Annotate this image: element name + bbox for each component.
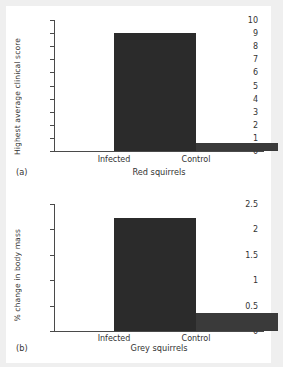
y-tick-label-a-9: 9 bbox=[253, 29, 258, 38]
plot-area-a: Highest average clinical score 012345678… bbox=[6, 6, 271, 188]
y-tick-label-a-1: 1 bbox=[253, 133, 258, 142]
chart-panel-a: Highest average clinical score 012345678… bbox=[6, 6, 271, 188]
category-label-control-b: Control bbox=[182, 334, 211, 343]
plot-area-b: % change in body mass 00.511.522.5 Infec… bbox=[6, 188, 271, 363]
group-label-a: Red squirrels bbox=[132, 167, 185, 177]
y-tick-label-a-10: 10 bbox=[248, 16, 258, 25]
y-tick-label-a-7: 7 bbox=[253, 55, 258, 64]
y-tick-a-2 bbox=[50, 125, 54, 126]
x-axis-line-b bbox=[54, 331, 264, 332]
y-tick-label-a-4: 4 bbox=[253, 94, 258, 103]
y-tick-a-10 bbox=[50, 20, 54, 21]
y-tick-label-a-5: 5 bbox=[253, 81, 258, 90]
y-axis-line-b bbox=[54, 204, 55, 332]
category-labels-a: Infected Control bbox=[6, 155, 271, 167]
axes-b: 00.511.522.5 bbox=[54, 204, 264, 332]
y-tick-label-a-2: 2 bbox=[253, 120, 258, 129]
figure-sheet: Highest average clinical score 012345678… bbox=[6, 6, 271, 363]
y-tick-label-a-6: 6 bbox=[253, 68, 258, 77]
figure-page: Highest average clinical score 012345678… bbox=[0, 0, 283, 367]
y-tick-a-7 bbox=[50, 59, 54, 60]
y-tick-a-9 bbox=[50, 33, 54, 34]
category-label-control-a: Control bbox=[182, 155, 211, 164]
chart-panel-b: % change in body mass 00.511.522.5 Infec… bbox=[6, 188, 271, 363]
y-tick-label-a-8: 8 bbox=[253, 42, 258, 51]
y-tick-label-b-4: 2 bbox=[253, 225, 258, 234]
y-tick-a-5 bbox=[50, 86, 54, 87]
y-tick-a-6 bbox=[50, 72, 54, 73]
y-tick-b-3 bbox=[50, 255, 54, 256]
panel-tag-a: (a) bbox=[16, 167, 27, 177]
y-tick-b-2 bbox=[50, 280, 54, 281]
y-tick-b-0 bbox=[50, 331, 54, 332]
bar-b-infected bbox=[114, 218, 196, 331]
axes-a: 012345678910 bbox=[54, 20, 264, 152]
y-tick-label-b-1: 0.5 bbox=[245, 301, 258, 310]
y-tick-label-b-2: 1 bbox=[253, 276, 258, 285]
y-tick-label-b-3: 1.5 bbox=[245, 250, 258, 259]
panel-tag-b: (b) bbox=[16, 343, 28, 353]
y-axis-label-text-a: Highest average clinical score bbox=[13, 38, 22, 155]
y-tick-a-8 bbox=[50, 46, 54, 47]
y-tick-a-3 bbox=[50, 112, 54, 113]
y-tick-b-4 bbox=[50, 229, 54, 230]
group-label-b: Grey squirrels bbox=[131, 343, 188, 353]
y-tick-label-b-5: 2.5 bbox=[245, 200, 258, 209]
category-label-infected-b: Infected bbox=[98, 334, 131, 343]
y-tick-a-1 bbox=[50, 138, 54, 139]
bar-a-infected bbox=[114, 33, 196, 151]
y-tick-a-0 bbox=[50, 151, 54, 152]
y-tick-a-4 bbox=[50, 99, 54, 100]
y-axis-line-a bbox=[54, 20, 55, 152]
y-axis-label-text-b: % change in body mass bbox=[13, 229, 22, 322]
category-label-infected-a: Infected bbox=[98, 155, 131, 164]
y-tick-label-a-3: 3 bbox=[253, 107, 258, 116]
y-tick-b-1 bbox=[50, 306, 54, 307]
y-tick-b-5 bbox=[50, 204, 54, 205]
bar-b-control bbox=[196, 313, 278, 331]
bar-a-control bbox=[196, 143, 278, 151]
x-axis-line-a bbox=[54, 151, 264, 152]
